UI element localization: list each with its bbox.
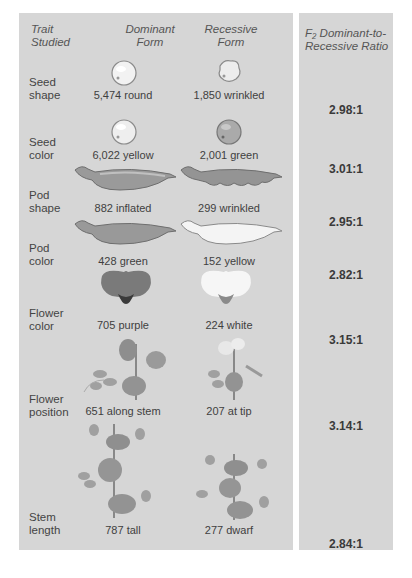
trait-pod-shape: Podshape: [29, 189, 60, 215]
trait-flower-color: Flowercolor: [29, 307, 64, 333]
trait-label: Pod: [29, 189, 60, 202]
trait-label: shape: [29, 202, 60, 215]
trait-header-line1: Trait: [31, 23, 70, 36]
wrinkled-pod-icon: [176, 160, 286, 200]
trait-stem-length: Stemlength: [29, 511, 60, 537]
trait-label: length: [29, 524, 60, 537]
round-seed-icon: [109, 58, 139, 88]
recessive-header-line1: Recessive: [181, 23, 281, 36]
ratio-pod-color: 2.82:1: [299, 268, 393, 282]
green-pod-icon: [70, 214, 180, 254]
recessive-count: 277 dwarf: [179, 524, 279, 536]
purple-flower-icon: [96, 268, 156, 318]
trait-header: Trait Studied: [31, 23, 70, 49]
wrinkled-seed-icon: [214, 56, 244, 86]
dominant-count: 428 green: [73, 255, 173, 267]
trait-label: position: [29, 406, 69, 419]
terminal-flower-plant-icon: [194, 336, 274, 404]
trait-label: Flower: [29, 307, 64, 320]
recessive-count: 299 wrinkled: [179, 202, 279, 214]
trait-flower-position: Flowerposition: [29, 393, 69, 419]
trait-label: Flower: [29, 393, 69, 406]
ratio-stem-length: 2.84:1: [299, 537, 393, 551]
ratio-header-line1: F₂ Dominant-to-: [305, 27, 395, 40]
tall-plant-icon: [72, 420, 162, 520]
trait-label: color: [29, 149, 56, 162]
recessive-count: 224 white: [179, 319, 279, 331]
ratio-pod-shape: 2.95:1: [299, 215, 393, 229]
trait-label: shape: [29, 89, 60, 102]
trait-seed-shape: Seedshape: [29, 76, 60, 102]
trait-label: Seed: [29, 76, 60, 89]
recessive-count: 152 yellow: [179, 255, 279, 267]
ratio-flower-position: 3.14:1: [299, 419, 393, 433]
trait-label: Seed: [29, 136, 56, 149]
dominant-count: 787 tall: [73, 524, 173, 536]
yellow-seed-icon: [109, 117, 139, 147]
recessive-count: 1,850 wrinkled: [179, 89, 279, 101]
dwarf-plant-icon: [192, 450, 282, 522]
dominant-count: 882 inflated: [73, 202, 173, 214]
recessive-header: Recessive Form: [181, 23, 281, 49]
trait-label: Pod: [29, 242, 54, 255]
dominant-count: 651 along stem: [73, 405, 173, 417]
yellow-pod-icon: [176, 214, 286, 254]
green-seed-icon: [214, 117, 244, 147]
ratio-header-line2: Recessive Ratio: [305, 40, 395, 53]
dominant-count: 705 purple: [73, 319, 173, 331]
trait-pod-color: Podcolor: [29, 242, 54, 268]
trait-label: color: [29, 320, 64, 333]
ratio-seed-color: 3.01:1: [299, 162, 393, 176]
dominant-count: 5,474 round: [73, 89, 173, 101]
ratio-column-panel: F₂ Dominant-to- Recessive Ratio 2.98:1 3…: [299, 13, 393, 550]
ratio-flower-color: 3.15:1: [299, 333, 393, 347]
inflated-pod-icon: [70, 160, 180, 200]
ratio-seed-shape: 2.98:1: [299, 103, 393, 117]
axial-flower-plant-icon: [78, 336, 174, 404]
white-flower-icon: [196, 268, 256, 318]
ratio-header: F₂ Dominant-to- Recessive Ratio: [305, 27, 395, 53]
trait-seed-color: Seedcolor: [29, 136, 56, 162]
trait-label: color: [29, 255, 54, 268]
trait-header-line2: Studied: [31, 36, 70, 49]
recessive-count: 207 at tip: [179, 405, 279, 417]
trait-label: Stem: [29, 511, 60, 524]
recessive-header-line2: Form: [181, 36, 281, 49]
